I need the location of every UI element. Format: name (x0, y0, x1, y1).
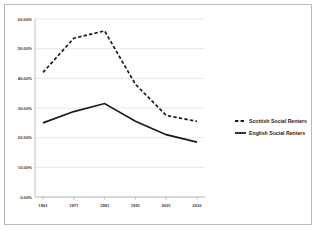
x-tick-label: 2001 (162, 203, 172, 208)
y-tick-label: 30.00% (18, 106, 32, 111)
line-chart: 0.00%10.00%20.00%30.00%40.00%50.00%60.00… (5, 5, 313, 226)
x-tick-labels: 196119711981199120012010 (38, 203, 202, 208)
x-tick-label: 1971 (69, 203, 79, 208)
y-tick-label: 0.00% (20, 195, 32, 200)
chart-legend: Scottish Social RentersEnglish Social Re… (235, 118, 307, 136)
y-tick-label: 50.00% (18, 46, 32, 51)
gridlines (35, 19, 205, 197)
legend-label-2: English Social Renters (249, 130, 305, 136)
y-tick-label: 60.00% (18, 17, 32, 22)
y-tick-label: 10.00% (18, 165, 32, 170)
x-tick-label: 1981 (100, 203, 110, 208)
data-series (43, 31, 197, 142)
y-tick-label: 20.00% (18, 135, 32, 140)
legend-label-1: Scottish Social Renters (249, 118, 307, 124)
x-tick-label: 1991 (131, 203, 141, 208)
y-tick-labels: 0.00%10.00%20.00%30.00%40.00%50.00%60.00… (18, 17, 32, 200)
x-tick-marks (43, 197, 197, 200)
series-line-2 (43, 104, 197, 143)
chart-frame: 0.00%10.00%20.00%30.00%40.00%50.00%60.00… (4, 4, 312, 225)
y-tick-label: 40.00% (18, 76, 32, 81)
x-tick-label: 1961 (38, 203, 48, 208)
x-tick-label: 2010 (192, 203, 202, 208)
chart-plot-area: 0.00%10.00%20.00%30.00%40.00%50.00%60.00… (5, 5, 313, 226)
